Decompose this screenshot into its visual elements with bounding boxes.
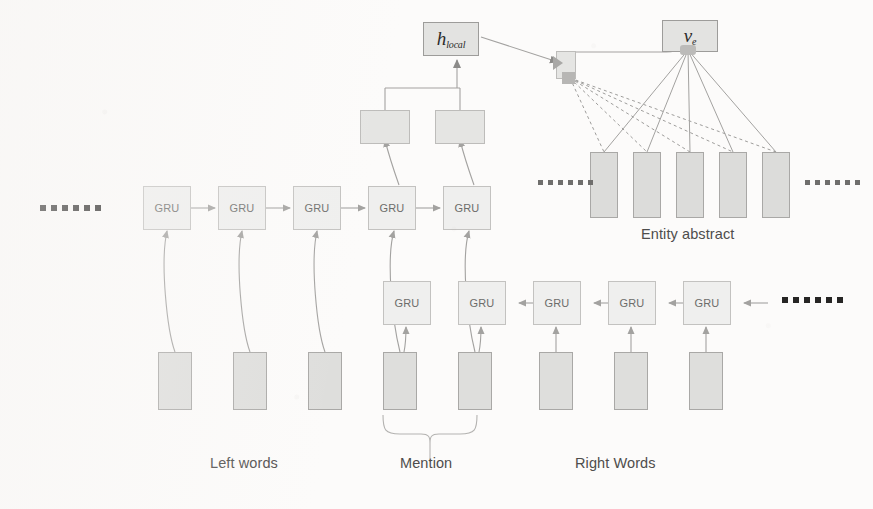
backward-gru-cell-1[interactable]: GRU [383,281,431,325]
forward-gru-cell-4[interactable]: GRU [368,186,416,230]
ellipsis-abstract-right [805,180,860,185]
gru-label: GRU [454,202,479,214]
caption-entity-abstract: Entity abstract [641,226,734,242]
forward-gru-cell-1[interactable]: GRU [143,186,191,230]
v-e-formula: ve [684,26,697,47]
gru-label: GRU [469,297,494,309]
h-local-formula: hlocal [437,29,466,50]
entity-abstract-box-1[interactable] [590,152,618,218]
backward-gru-cell-4[interactable]: GRU [608,281,656,325]
left-word-box-3[interactable] [308,352,342,410]
node-h-local[interactable]: hlocal [423,22,479,56]
forward-gru-cell-5[interactable]: GRU [443,186,491,230]
caption-left-words: Left words [210,455,278,471]
v-e-fan-hub [680,45,696,55]
entity-abstract-box-3[interactable] [676,152,704,218]
left-word-box-2[interactable] [233,352,267,410]
ellipsis-far-right-backward [782,297,843,303]
gru-label: GRU [229,202,254,214]
gru-label: GRU [544,297,569,309]
entity-abstract-box-5[interactable] [762,152,790,218]
entity-abstract-box-2[interactable] [633,152,661,218]
forward-gru-cell-2[interactable]: GRU [218,186,266,230]
connection-wires [0,0,873,509]
gru-label: GRU [304,202,329,214]
gru-label: GRU [154,202,179,214]
merge-box-left[interactable] [360,110,410,144]
backward-gru-cell-3[interactable]: GRU [533,281,581,325]
ellipsis-abstract-left [538,180,593,185]
gru-label: GRU [394,297,419,309]
right-word-box-1[interactable] [539,352,573,410]
gru-label: GRU [619,297,644,309]
left-word-box-1[interactable] [158,352,192,410]
caption-right-words: Right Words [575,455,656,471]
figure-canvas: hlocal ve GRU GRU GRU GRU GRU GRU GRU GR… [0,0,873,509]
right-word-box-3[interactable] [689,352,723,410]
gru-label: GRU [379,202,404,214]
right-word-box-2[interactable] [614,352,648,410]
attention-cell-knob [562,72,575,84]
caption-mention: Mention [400,455,452,471]
backward-gru-cell-5[interactable]: GRU [683,281,731,325]
attention-arrow-head [553,56,563,70]
forward-gru-cell-3[interactable]: GRU [293,186,341,230]
backward-gru-cell-2[interactable]: GRU [458,281,506,325]
merge-box-right[interactable] [435,110,485,144]
mention-word-box-1[interactable] [383,352,417,410]
ellipsis-far-left [40,205,101,211]
mention-word-box-2[interactable] [458,352,492,410]
entity-abstract-box-4[interactable] [719,152,747,218]
gru-label: GRU [694,297,719,309]
